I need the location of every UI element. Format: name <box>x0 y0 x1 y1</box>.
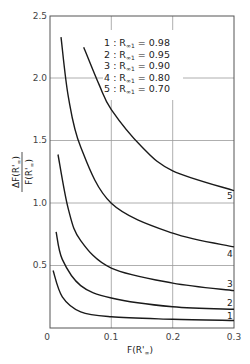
curve-label-5: 5 <box>227 191 233 201</box>
legend: 1 : R∞1 = 0.98 2 : R∞1 = 0.95 3 : R∞1 = … <box>104 37 170 95</box>
y-axis-label-numerator: ΔF(R'∞) <box>11 156 22 188</box>
y-tick-1.5: 1.5 <box>33 135 47 145</box>
x-tick-0.1: 0.1 <box>104 332 118 342</box>
curve-label-2: 2 <box>227 298 233 308</box>
x-tick-0.3: 0.3 <box>227 332 241 342</box>
y-tick-0.5: 0.5 <box>33 260 47 270</box>
x-tick-0: 0 <box>44 332 50 342</box>
y-tick-labels: 2.5 2.0 1.5 1.0 0.5 <box>33 11 48 270</box>
y-tick-2.5: 2.5 <box>33 11 47 21</box>
curve-label-1: 1 <box>227 311 233 321</box>
y-tick-1.0: 1.0 <box>33 198 48 208</box>
curve-3 <box>58 155 234 291</box>
curve-label-4: 4 <box>227 249 233 259</box>
legend-entry-5: 5 : R∞1 = 0.70 <box>104 83 170 95</box>
legend-entry-1: 1 : R∞1 = 0.98 <box>104 37 170 49</box>
x-tick-labels: 0 0.1 0.2 0.3 <box>44 332 241 342</box>
y-axis-label-denominator: F(R'∞) <box>24 159 35 185</box>
x-axis-label: F(R'∞) <box>127 345 153 356</box>
y-tick-2.0: 2.0 <box>33 73 48 83</box>
curve-end-labels: 1 2 3 4 5 <box>227 191 233 321</box>
curve-label-3: 3 <box>227 279 233 289</box>
x-tick-0.2: 0.2 <box>166 332 180 342</box>
chart-canvas: 1 2 3 4 5 1 : R∞1 = 0.98 2 : R∞1 = 0.95 … <box>0 0 250 364</box>
legend-entry-3: 3 : R∞1 = 0.90 <box>104 60 170 72</box>
y-axis-label: ΔF(R'∞) F(R'∞) <box>11 152 35 192</box>
